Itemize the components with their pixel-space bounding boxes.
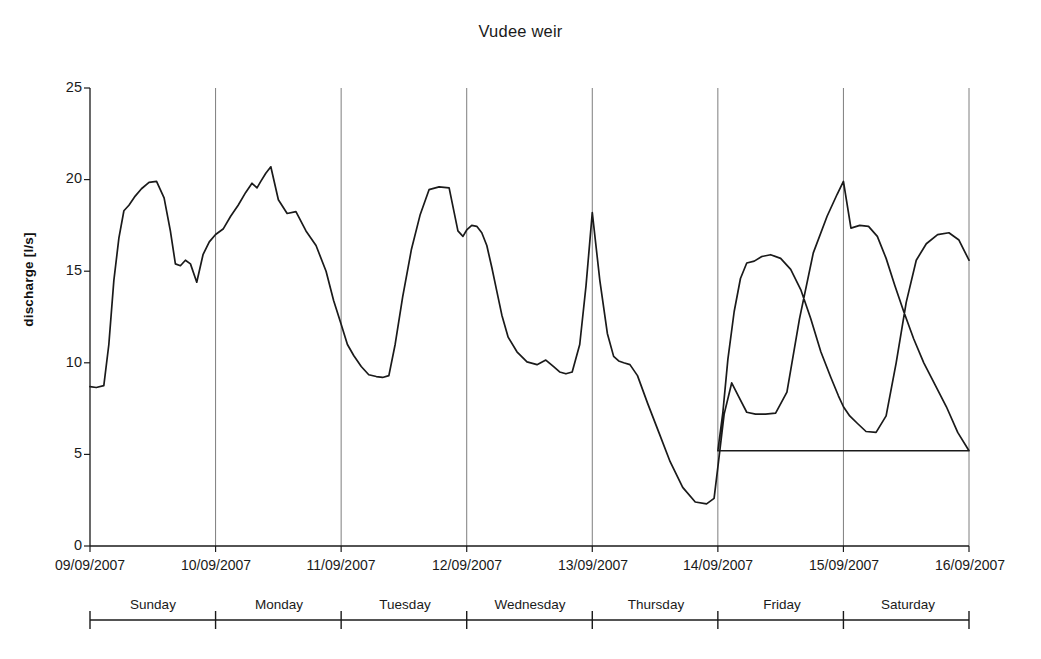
axis-lines	[90, 88, 969, 546]
day-timeline-axis	[90, 611, 969, 629]
vertical-gridlines	[216, 88, 969, 546]
plot-canvas	[0, 0, 1041, 659]
chart-figure: Vudee weir discharge [l/s] 25 20 15 10 5…	[0, 0, 1041, 659]
y-axis-ticks	[84, 88, 90, 546]
discharge-line-series	[90, 167, 969, 504]
x-axis-ticks	[90, 546, 969, 552]
